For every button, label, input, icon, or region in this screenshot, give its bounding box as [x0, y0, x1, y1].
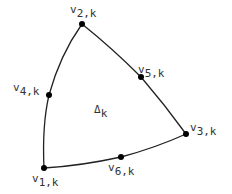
label-v1-main: v — [32, 172, 39, 185]
label-delta-main: Δ — [94, 103, 101, 116]
vertex-v1-dot — [41, 165, 47, 171]
label-v5-main: v — [138, 63, 145, 76]
label-v5: v5,k — [138, 64, 165, 79]
label-v4-sub: 4,k — [20, 85, 40, 98]
vertex-v6-dot — [118, 154, 124, 160]
label-v2-main: v — [70, 3, 77, 16]
vertex-v4-dot — [46, 92, 52, 98]
label-delta-k: Δk — [94, 104, 107, 119]
label-v1: v1,k — [32, 173, 59, 188]
vertex-v3-dot — [183, 131, 189, 137]
label-v6-main: v — [108, 161, 115, 174]
label-v2-sub: 2,k — [77, 7, 97, 20]
label-v6: v6,k — [108, 162, 135, 177]
label-v1-sub: 1,k — [39, 176, 59, 189]
label-v6-sub: 6,k — [115, 165, 135, 178]
label-v2: v2,k — [70, 4, 97, 19]
label-delta-sub: k — [101, 107, 108, 120]
vertex-v2-dot — [79, 21, 85, 27]
label-v3-sub: 3,k — [197, 125, 217, 138]
label-v3: v3,k — [190, 122, 217, 137]
label-v4: v4,k — [13, 82, 40, 97]
label-v4-main: v — [13, 81, 20, 94]
label-v5-sub: 5,k — [145, 67, 165, 80]
label-v3-main: v — [190, 121, 197, 134]
